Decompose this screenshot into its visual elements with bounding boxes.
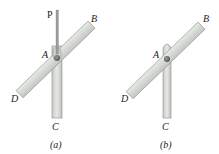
figure-canvas: P A B C D (a) A B C D (b) bbox=[0, 0, 219, 154]
label-d: D bbox=[120, 93, 129, 104]
label-b: B bbox=[91, 13, 97, 24]
caption-a: (a) bbox=[50, 139, 62, 151]
pin-a bbox=[164, 56, 170, 62]
label-c: C bbox=[162, 121, 169, 132]
label-a: A bbox=[152, 49, 160, 60]
label-p: P bbox=[47, 9, 53, 20]
caption-b: (b) bbox=[160, 139, 172, 151]
panel-b: A B C D (b) bbox=[120, 13, 209, 151]
label-a: A bbox=[41, 49, 49, 60]
label-b: B bbox=[203, 13, 209, 24]
label-d: D bbox=[10, 93, 19, 104]
load-rod-p bbox=[56, 10, 58, 54]
label-c: C bbox=[52, 121, 59, 132]
pin-a bbox=[54, 55, 60, 61]
panel-a: P A B C D (a) bbox=[10, 9, 97, 151]
